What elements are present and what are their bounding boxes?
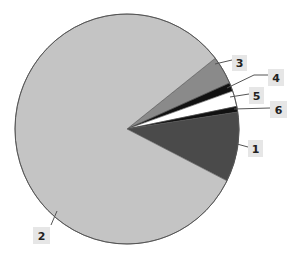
leader-line bbox=[237, 144, 248, 147]
pie-chart: 345612 bbox=[0, 0, 307, 260]
label-text: 6 bbox=[275, 104, 283, 117]
label-text: 2 bbox=[38, 230, 46, 243]
leader-line bbox=[227, 75, 268, 88]
slice-label-4: 4 bbox=[227, 69, 284, 88]
label-text: 1 bbox=[252, 143, 260, 156]
label-text: 3 bbox=[236, 57, 244, 70]
leader-line bbox=[234, 108, 270, 109]
pie-slices bbox=[15, 14, 239, 244]
label-text: 5 bbox=[253, 90, 261, 103]
slice-label-1: 1 bbox=[237, 140, 263, 157]
label-text: 4 bbox=[272, 72, 280, 85]
